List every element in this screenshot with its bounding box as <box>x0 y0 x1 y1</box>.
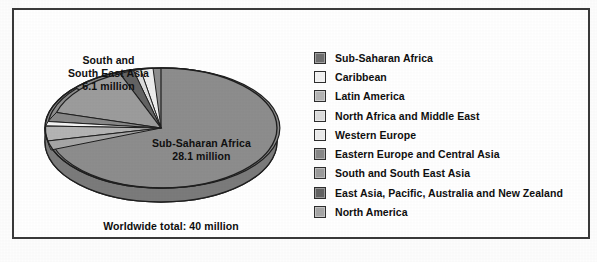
pie-slice-label-ssa-name: Sub-Saharan Africa <box>152 137 251 150</box>
legend-label-eastern-europe-and-central-asia: Eastern Europe and Central Asia <box>335 148 500 160</box>
pie-slice-label-ssea-value: 6.1 million <box>68 80 149 93</box>
chart-caption: Worldwide total: 40 million <box>46 220 296 232</box>
legend-swatch-sub-saharan-africa <box>314 52 326 64</box>
legend-swatch-western-europe <box>314 129 326 141</box>
pie-slice-label-ssea-line2: South East Asia <box>68 67 149 80</box>
legend-item-sub-saharan-africa: Sub-Saharan Africa <box>314 48 596 67</box>
legend-item-eastern-europe-and-central-asia: Eastern Europe and Central Asia <box>314 144 596 163</box>
legend-swatch-east-asia-pacific-australia-new-zealand <box>314 187 326 199</box>
legend-label-east-asia-pacific-australia-new-zealand: East Asia, Pacific, Australia and New Ze… <box>335 187 563 199</box>
legend-item-north-africa-and-middle-east: North Africa and Middle East <box>314 106 596 125</box>
legend-item-latin-america: Latin America <box>314 87 596 106</box>
pie-slice-label-ssa-value: 28.1 million <box>152 150 251 163</box>
legend-swatch-caribbean <box>314 71 326 83</box>
legend-item-caribbean: Caribbean <box>314 67 596 86</box>
legend-label-north-africa-and-middle-east: North Africa and Middle East <box>335 110 480 122</box>
legend-label-western-europe: Western Europe <box>335 129 416 141</box>
legend-swatch-north-america <box>314 206 326 218</box>
legend-label-south-and-south-east-asia: South and South East Asia <box>335 167 470 179</box>
legend-swatch-south-and-south-east-asia <box>314 167 326 179</box>
legend-item-south-and-south-east-asia: South and South East Asia <box>314 164 596 183</box>
legend-item-east-asia-pacific-australia-new-zealand: East Asia, Pacific, Australia and New Ze… <box>314 183 596 202</box>
legend-swatch-latin-america <box>314 90 326 102</box>
pie-slice-label-south-and-south-east-asia: South and South East Asia 6.1 million <box>68 54 149 92</box>
pie-slice-label-sub-saharan-africa: Sub-Saharan Africa 28.1 million <box>152 137 251 163</box>
legend-item-western-europe: Western Europe <box>314 125 596 144</box>
legend-label-sub-saharan-africa: Sub-Saharan Africa <box>335 52 433 64</box>
pie-slice-label-ssea-line1: South and <box>68 54 149 67</box>
legend-label-caribbean: Caribbean <box>335 71 387 83</box>
legend-label-latin-america: Latin America <box>335 90 405 102</box>
legend-item-north-america: North America <box>314 202 596 221</box>
figure-page: Sub-Saharan Africa 28.1 million South an… <box>0 0 597 262</box>
legend-swatch-north-africa-and-middle-east <box>314 110 326 122</box>
legend-label-north-america: North America <box>335 206 408 218</box>
pie-chart: Sub-Saharan Africa 28.1 million South an… <box>32 24 290 236</box>
figure-frame: Sub-Saharan Africa 28.1 million South an… <box>12 8 590 239</box>
chart-legend: Sub-Saharan Africa Caribbean Latin Ameri… <box>314 48 596 222</box>
legend-swatch-eastern-europe-and-central-asia <box>314 148 326 160</box>
